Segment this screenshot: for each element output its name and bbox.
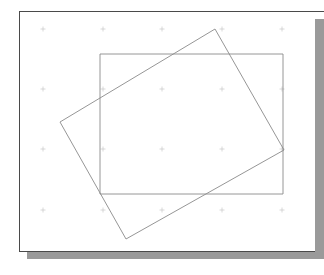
grid-cross-marker	[101, 27, 106, 32]
grid-cross-marker	[41, 87, 46, 92]
grid-cross-marker	[220, 27, 225, 32]
grid-cross-marker	[280, 208, 285, 213]
grid-cross-marker	[220, 208, 225, 213]
shapes-layer	[60, 29, 284, 239]
drawing-application	[0, 0, 324, 275]
grid-cross-marker	[101, 87, 106, 92]
grid-cross-marker	[220, 87, 225, 92]
grid-cross-marker	[160, 208, 165, 213]
grid-cross-marker	[41, 147, 46, 152]
grid-cross-marker	[160, 27, 165, 32]
drawing-surface[interactable]	[0, 0, 324, 275]
rotated-rectangle[interactable]	[60, 29, 284, 239]
grid-cross-marker	[280, 87, 285, 92]
grid-cross-marker	[160, 87, 165, 92]
grid-cross-marker	[280, 27, 285, 32]
grid-cross-marker	[101, 208, 106, 213]
grid-cross-marker	[160, 147, 165, 152]
grid-cross-marker	[220, 147, 225, 152]
grid-cross-marker	[101, 147, 106, 152]
grid-cross-marker	[41, 208, 46, 213]
axis-aligned-rectangle[interactable]	[100, 54, 283, 194]
grid-cross-marker	[41, 27, 46, 32]
